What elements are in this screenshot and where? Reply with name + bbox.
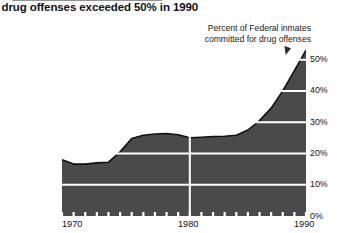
plot-area [62, 44, 306, 216]
y-tick-label-20: 20% [310, 149, 328, 158]
area-series-fill [62, 50, 306, 216]
y-tick-label-10: 10% [310, 180, 328, 189]
chart-legend: Percent of Federal inmates committed for… [205, 23, 311, 44]
chart-figure: r drug offenses exceeded 50% in 1990 Per… [0, 0, 347, 233]
y-tick-label-50: 50% [310, 55, 328, 64]
x-tick-label-1970: 1970 [62, 219, 82, 229]
legend-line-2: committed for drug offenses [205, 34, 311, 45]
y-tick-label-40: 40% [310, 86, 328, 95]
legend-line-1: Percent of Federal inmates [205, 23, 311, 34]
x-tick-label-1990: 1990 [294, 219, 314, 229]
area-series-group [62, 50, 306, 216]
area-chart-svg [62, 44, 306, 216]
x-tick-label-1980: 1980 [178, 219, 198, 229]
chart-title: r drug offenses exceeded 50% in 1990 [0, 1, 198, 13]
y-tick-label-30: 30% [310, 118, 328, 127]
